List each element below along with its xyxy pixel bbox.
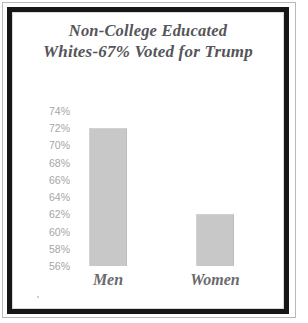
category-label-men: Men xyxy=(58,271,158,289)
bar-series xyxy=(13,13,283,308)
scan-artifact-speck xyxy=(37,296,39,298)
bar-women xyxy=(196,214,234,266)
chart-plot-area: Non-College Educated Whites-67% Voted fo… xyxy=(13,13,283,308)
bar-men xyxy=(89,128,127,266)
chart-screenshot: Non-College Educated Whites-67% Voted fo… xyxy=(0,0,308,323)
category-label-women: Women xyxy=(165,271,265,289)
